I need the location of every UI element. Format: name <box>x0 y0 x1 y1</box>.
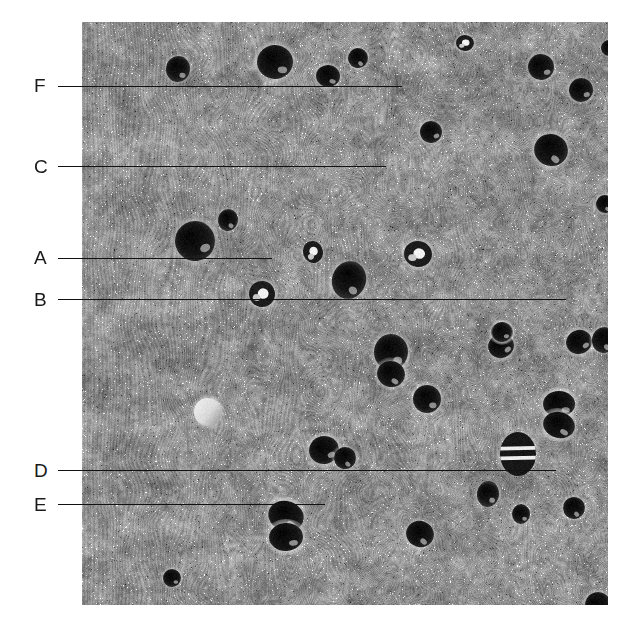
leader-line-b <box>58 299 566 300</box>
label-e: E <box>34 495 47 514</box>
leader-line-c <box>58 166 386 167</box>
leader-line-a <box>58 258 272 259</box>
figure-container: FCABDE <box>0 0 634 629</box>
label-b: B <box>34 290 47 309</box>
leader-line-d <box>58 470 556 471</box>
micrograph-plate <box>82 22 608 605</box>
label-c: C <box>34 157 48 176</box>
label-d: D <box>34 461 48 480</box>
leader-line-e <box>58 504 325 505</box>
label-a: A <box>34 248 47 267</box>
leader-line-f <box>58 86 402 87</box>
label-f: F <box>34 76 46 95</box>
micrograph-image <box>82 22 608 605</box>
